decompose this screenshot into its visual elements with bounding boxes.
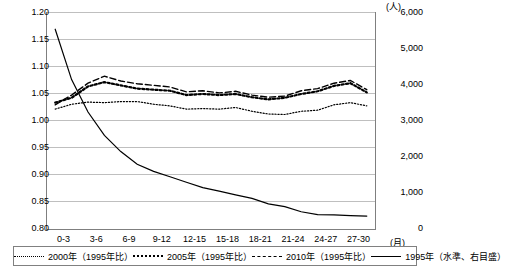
- legend-label-2005: 2005年（1995年比）: [167, 250, 252, 263]
- legend-label-2010: 2010年（1995年比）: [286, 250, 371, 263]
- legend-label-2000: 2000年（1995年比）: [48, 250, 133, 263]
- legend-item-2010: 2010年（1995年比）: [252, 250, 371, 263]
- legend-swatch-dotted-thick-icon: [133, 255, 163, 257]
- legend-item-2000: 2000年（1995年比）: [14, 250, 133, 263]
- legend-label-1995: 1995年（水準、右目盛）: [405, 250, 505, 263]
- legend-swatch-dashed-icon: [252, 256, 282, 257]
- legend-item-1995: 1995年（水準、右目盛）: [371, 250, 505, 263]
- series-line: [55, 29, 367, 216]
- legend-swatch-dotted-icon: [14, 256, 44, 257]
- series-line: [55, 102, 367, 115]
- legend-item-2005: 2005年（1995年比）: [133, 250, 252, 263]
- legend-swatch-solid-icon: [371, 256, 401, 257]
- chart-legend: 2000年（1995年比） 2005年（1995年比） 2010年（1995年比…: [13, 246, 417, 266]
